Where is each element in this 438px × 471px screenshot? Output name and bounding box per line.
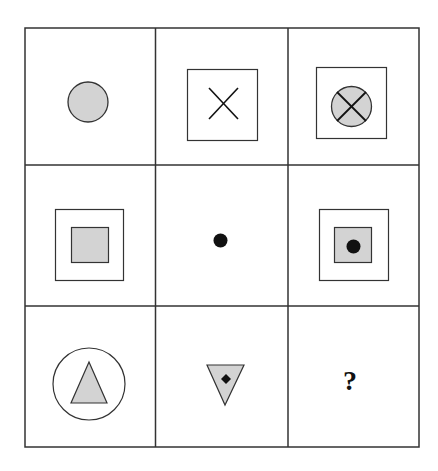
puzzle-grid: ? bbox=[0, 0, 438, 471]
cell-r2c2 bbox=[214, 234, 228, 248]
cell-r1c1 bbox=[68, 82, 108, 122]
gray-circle-icon bbox=[68, 82, 108, 122]
gray-square-icon bbox=[72, 228, 109, 263]
black-dot-icon bbox=[214, 234, 228, 248]
cell-r3c3: ? bbox=[343, 365, 357, 396]
question-mark: ? bbox=[343, 365, 357, 396]
black-dot-icon bbox=[347, 240, 361, 254]
